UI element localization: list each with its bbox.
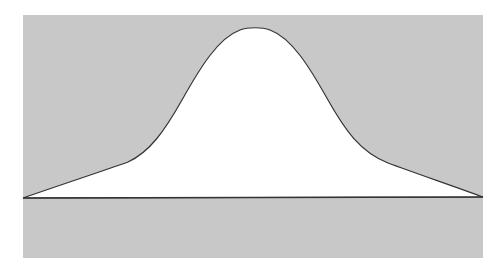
bell-curve-figure bbox=[0, 0, 501, 274]
